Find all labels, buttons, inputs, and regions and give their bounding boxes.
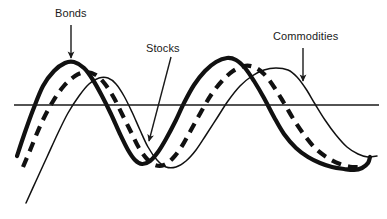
annotation-label-stocks: Stocks [146,42,180,54]
annotation-label-bonds: Bonds [55,7,87,19]
annotation-label-commodities: Commodities [273,30,338,42]
series-layer [17,58,377,203]
arrow-stocks [149,57,171,141]
series-line-stocks [23,66,362,168]
series-line-commodities [26,68,377,203]
business-cycle-rotation-figure: Bonds Stocks Commodities [0,0,387,219]
